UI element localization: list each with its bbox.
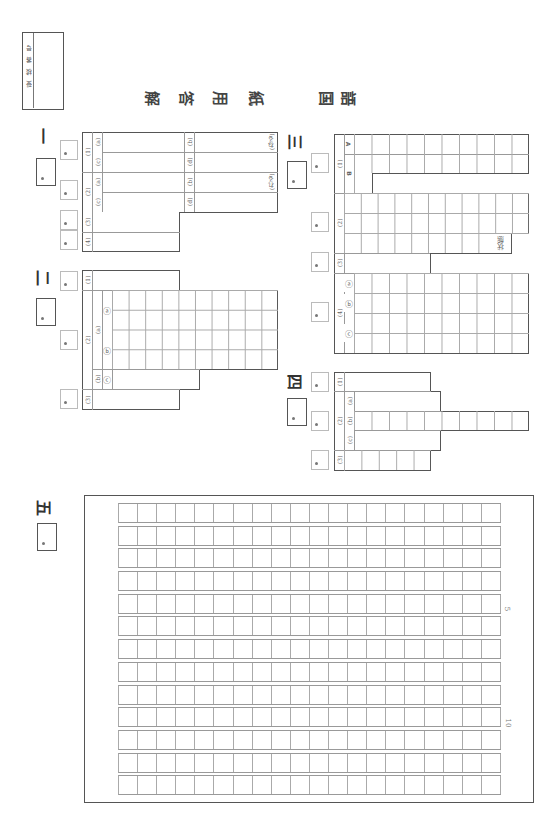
two-circ-a: ⓐ: [102, 300, 112, 320]
title-char-3: 用: [211, 91, 232, 106]
section-four-q2-score[interactable]: [311, 411, 329, 431]
grid-row-4[interactable]: [118, 571, 501, 591]
one-q1-c-answer[interactable]: [103, 153, 183, 171]
one-q2-c-answer[interactable]: [103, 193, 183, 211]
section-three-q1-score[interactable]: [311, 153, 329, 173]
section-one-table: (1) (2) (3) (4) (a) (c) (a) (c) (b) (d) …: [82, 132, 282, 252]
title-char-2: 答: [177, 91, 198, 106]
one-q2-d-label: (d): [184, 192, 194, 212]
grid-row-2[interactable]: [118, 526, 501, 546]
section-one-q4-score[interactable]: [60, 230, 78, 250]
four-q2-c-label: (c): [344, 430, 354, 450]
one-q2-d-answer[interactable]: [195, 193, 275, 211]
one-q1-b-suffix: (ねる): [266, 132, 276, 152]
grid-row-11[interactable]: [118, 730, 501, 750]
grid-row-7[interactable]: [118, 639, 501, 659]
one-q1-label: (1): [82, 132, 92, 172]
four-q1-label: (1): [334, 372, 344, 391]
section-three-total-score[interactable]: [287, 161, 307, 189]
three-circ-b: ⓑ: [344, 294, 354, 312]
section-two-q1-score[interactable]: [60, 271, 78, 291]
one-q2-b-suffix: (れる): [266, 172, 276, 192]
grid-row-10[interactable]: [118, 707, 501, 727]
one-q1-b-label: (b): [184, 132, 194, 152]
grid-row-3[interactable]: [118, 548, 501, 568]
one-q1-d-answer[interactable]: [195, 153, 275, 171]
two-q3-answer[interactable]: [93, 390, 178, 409]
one-q1-a-answer[interactable]: [103, 133, 183, 151]
one-q2-c-label: (c): [92, 192, 102, 212]
section-one-total-score[interactable]: [36, 158, 56, 186]
section-one-q1-score[interactable]: [60, 140, 78, 160]
section-three-q3-score[interactable]: [311, 252, 329, 272]
three-q1-b-grid[interactable]: [354, 154, 529, 173]
two-q2-a-label: (a): [92, 290, 102, 369]
title-char-1: 解: [143, 91, 164, 106]
two-q3-label: (3): [82, 389, 92, 410]
four-q2-b-grid[interactable]: [354, 411, 529, 430]
one-q2-b-label: (b): [184, 172, 194, 192]
one-q2-label: (2): [82, 172, 92, 212]
three-q3-label: (3): [334, 253, 344, 273]
grid-row-6[interactable]: [118, 616, 501, 636]
four-q3-grid[interactable]: [344, 450, 431, 470]
section-four-total-score[interactable]: [287, 398, 307, 426]
grid-row-13[interactable]: [118, 775, 501, 795]
section-two-total-score[interactable]: [36, 298, 56, 326]
two-circ-b: ⓑ: [102, 340, 112, 360]
grid-row-8[interactable]: [118, 662, 501, 682]
two-q1-label: (1): [82, 270, 92, 290]
two-q1-answer[interactable]: [93, 271, 178, 289]
three-circ-c: ⓒ: [344, 324, 354, 342]
four-q2-a-answer[interactable]: [355, 392, 439, 410]
section-one-q2-score[interactable]: [60, 180, 78, 200]
section-four-q1-score[interactable]: [311, 372, 329, 392]
section-three-q2-score[interactable]: [311, 212, 329, 232]
row-marker-5: 5: [503, 607, 511, 611]
section-four-marker: 四: [284, 374, 308, 390]
four-q1-answer[interactable]: [345, 373, 429, 390]
one-q3-answer[interactable]: [93, 213, 178, 231]
grid-row-1[interactable]: [118, 503, 501, 523]
two-q2-a-grid[interactable]: [112, 290, 278, 369]
section-one-q3-score[interactable]: [60, 210, 78, 230]
grid-row-9[interactable]: [118, 685, 501, 705]
section-two-marker: 二: [32, 270, 56, 286]
three-q1-b-extra-cell[interactable]: [354, 173, 372, 193]
subject-char-2: 語: [339, 91, 360, 106]
four-q2-label: (2): [334, 391, 344, 450]
section-three-marker: 三: [284, 134, 308, 150]
four-q2-b-label: (b): [344, 411, 354, 430]
one-q1-d-label: (d): [184, 152, 194, 172]
three-q4-label: (4): [334, 273, 344, 353]
section-three-q4-score[interactable]: [311, 302, 329, 322]
grid-row-12[interactable]: [118, 753, 501, 773]
one-q1-b-answer[interactable]: [195, 133, 265, 151]
one-q2-b-answer[interactable]: [195, 173, 265, 191]
three-q4-grid[interactable]: [354, 273, 529, 353]
one-q1-a-label: (a): [92, 132, 102, 152]
one-q3-label: (3): [82, 212, 92, 232]
section-two-q2-score[interactable]: [60, 330, 78, 350]
section-five-total-score[interactable]: [37, 523, 57, 551]
title-char-4: 紙: [247, 91, 268, 106]
two-q2-b-label: (b): [92, 369, 102, 389]
one-q4-answer[interactable]: [93, 233, 178, 251]
grid-row-5[interactable]: [118, 594, 501, 614]
two-q2-c-answer[interactable]: [113, 370, 198, 388]
section-one-marker: 一: [32, 128, 56, 144]
three-q1-a-grid[interactable]: [354, 134, 529, 154]
subject-char-1: 国: [317, 91, 338, 106]
four-q2-c-answer[interactable]: [355, 431, 439, 449]
exam-number-input[interactable]: [35, 33, 63, 108]
section-two-q3-score[interactable]: [60, 389, 78, 409]
exam-number-label-text: 受検番号: [24, 39, 33, 87]
three-q3-answer[interactable]: [345, 254, 429, 272]
four-q2-a-label: (a): [344, 391, 354, 411]
one-q2-a-answer[interactable]: [103, 173, 183, 191]
section-four-q3-score[interactable]: [311, 450, 329, 470]
four-q3-label: (3): [334, 450, 344, 470]
row-marker-10: 10: [504, 719, 512, 728]
one-q4-label: (4): [82, 232, 92, 252]
composition-grid[interactable]: [118, 503, 501, 798]
